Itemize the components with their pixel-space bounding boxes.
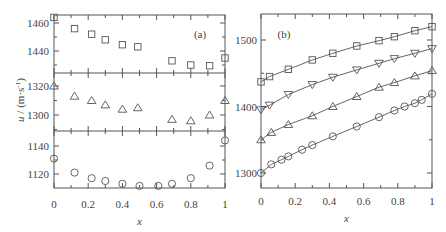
data-point [87,97,96,104]
data-point [101,101,110,108]
figure: 00.20.40.60.81x(a)u / (m·s-1)14401460130… [0,0,446,232]
data-point [187,175,194,182]
data-point [352,93,361,100]
data-point [133,104,142,111]
x-tick-label: 0 [258,195,264,207]
data-point [71,25,77,31]
y-tick-label: 1440 [27,45,50,57]
data-point [168,180,175,187]
data-point [71,169,78,176]
data-point [70,92,79,99]
data-point [88,31,94,37]
x-tick-label: 0.2 [288,195,302,207]
x-tick-label: 0.8 [184,198,198,210]
y-tick-label: 1300 [235,167,258,179]
data-point [88,175,95,182]
data-point [169,58,175,64]
data-point [206,63,212,69]
panel-a-frame [54,15,225,188]
data-point [187,117,196,124]
panel-label-a: (a) [194,28,207,41]
x-tick-label: 0 [51,198,57,210]
x-tick-label: 0.8 [391,195,405,207]
data-point [206,162,213,169]
data-point [205,111,214,118]
data-point [119,42,125,48]
data-point [102,177,109,184]
y-tick-label: 1320 [27,80,50,92]
x-axis-label: x [136,215,142,227]
x-tick-label: 0.4 [323,195,337,207]
y-tick-label: 1140 [27,140,49,152]
data-point [135,44,141,50]
x-tick-label: 1 [222,198,228,210]
series-line [261,94,432,173]
y-tick-label: 1300 [27,109,50,121]
y-tick-label: 1460 [27,17,50,29]
x-tick-label: 0.6 [357,195,371,207]
y-axis-label: u / (m·s-1) [14,78,27,122]
data-point [118,105,127,112]
x-tick-label: 0.6 [150,198,164,210]
x-axis-label: x [343,212,349,224]
y-tick-label: 1120 [27,168,49,180]
data-point [102,37,108,43]
data-point [329,74,338,81]
panel-label-b: (b) [278,28,291,41]
data-point [284,120,293,127]
data-point [188,62,194,68]
y-tick-label: 1400 [235,101,258,113]
x-tick-label: 0.2 [81,198,95,210]
data-point [168,115,177,122]
x-tick-label: 0.4 [116,198,130,210]
x-tick-label: 1 [429,195,435,207]
y-tick-label: 1500 [235,34,258,46]
data-point [329,103,338,110]
series-line [261,71,432,140]
